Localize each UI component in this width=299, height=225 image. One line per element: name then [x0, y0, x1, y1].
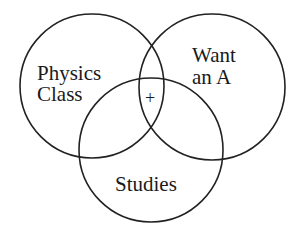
physics-class-label-line2: Class	[37, 82, 83, 106]
studies-label: Studies	[115, 172, 177, 196]
want-an-a-label-line2: an A	[192, 65, 232, 89]
triple-intersection-plus-marker: +	[145, 88, 155, 108]
venn-diagram: Physics Class Want an A Studies +	[0, 0, 299, 225]
want-an-a-label-line1: Want	[192, 43, 236, 67]
